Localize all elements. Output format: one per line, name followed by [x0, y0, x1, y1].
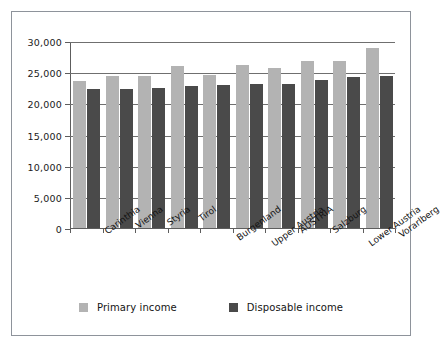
y-axis-tick-mark: [65, 104, 70, 105]
chart-legend: Primary incomeDisposable income: [12, 302, 410, 313]
bar-group: [201, 42, 234, 228]
bar-group: [104, 42, 137, 228]
legend-entry[interactable]: Disposable income: [229, 302, 343, 313]
bar-group: [234, 42, 267, 228]
y-axis-tick-mark: [65, 42, 70, 43]
bar: [73, 81, 86, 228]
x-axis-tick-mark: [363, 229, 364, 233]
y-axis-tick-label: 5,000: [34, 192, 62, 203]
x-axis-tick-mark: [135, 229, 136, 233]
bar-group: [299, 42, 332, 228]
y-axis-tick-label: 20,000: [28, 99, 62, 110]
y-axis-tick-label: 25,000: [28, 68, 62, 79]
bar-group: [266, 42, 299, 228]
y-axis-tick-label: 10,000: [28, 161, 62, 172]
bar: [366, 48, 379, 228]
legend-swatch-icon: [79, 303, 88, 312]
x-axis-tick-mark: [168, 229, 169, 233]
bar: [106, 76, 119, 228]
bar-group: [71, 42, 104, 228]
bar-group: [331, 42, 364, 228]
bar: [171, 66, 184, 228]
bar: [236, 65, 249, 228]
bar: [333, 61, 346, 228]
bar-group: [136, 42, 169, 228]
y-axis-tick-label: 30,000: [28, 37, 62, 48]
bar: [217, 85, 230, 228]
bar: [301, 61, 314, 228]
legend-entry[interactable]: Primary income: [79, 302, 177, 313]
x-axis-tick-mark: [200, 229, 201, 233]
x-axis-tick-mark: [233, 229, 234, 233]
bar: [87, 89, 100, 228]
y-axis-tick-mark: [65, 198, 70, 199]
y-axis-tick-label: 0: [56, 224, 62, 235]
x-axis-tick-mark: [70, 229, 71, 233]
x-axis-tick-mark: [330, 229, 331, 233]
bar-group: [364, 42, 397, 228]
x-axis-tick-mark: [265, 229, 266, 233]
y-axis-tick-label: 15,000: [28, 130, 62, 141]
legend-swatch-icon: [229, 303, 238, 312]
bar: [138, 76, 151, 228]
chart-frame: 05,00010,00015,00020,00025,00030,000 Car…: [11, 11, 411, 336]
plot-area: 05,00010,00015,00020,00025,00030,000: [70, 42, 395, 229]
bar: [380, 76, 393, 228]
legend-label: Primary income: [97, 302, 177, 313]
y-axis-tick-mark: [65, 136, 70, 137]
y-axis-tick-mark: [65, 167, 70, 168]
legend-label: Disposable income: [247, 302, 343, 313]
y-axis-tick-mark: [65, 73, 70, 74]
bar: [250, 84, 263, 228]
bar-group: [169, 42, 202, 228]
bar: [282, 84, 295, 228]
